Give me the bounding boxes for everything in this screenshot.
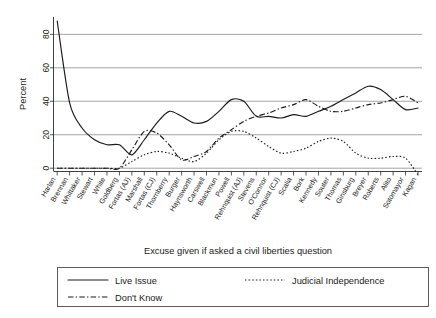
legend-entry-dont-know: Don't Know bbox=[68, 293, 163, 303]
y-tick-label: 40 bbox=[41, 96, 51, 106]
x-axis-title: Excuse given if asked a civil liberties … bbox=[144, 246, 332, 256]
y-tick-label: 20 bbox=[41, 130, 51, 140]
chart-figure: 020406080 HarlanBrennanWhittakerStewartW… bbox=[0, 0, 436, 318]
gridlines bbox=[54, 34, 423, 168]
legend-label-live-issue: Live Issue bbox=[115, 276, 157, 286]
y-axis-tick-labels: 020406080 bbox=[41, 29, 51, 170]
y-tick-label: 60 bbox=[41, 63, 51, 73]
legend-box bbox=[58, 268, 429, 307]
x-axis-ticks bbox=[57, 172, 418, 176]
series-line-dont-know bbox=[57, 96, 418, 169]
y-tick-label: 80 bbox=[41, 29, 51, 39]
x-axis-tick-labels: HarlanBrennanWhittakerStewartWhiteGoldbe… bbox=[39, 175, 418, 222]
legend-label-dont-know: Don't Know bbox=[115, 293, 163, 303]
chart-svg: 020406080 HarlanBrennanWhittakerStewartW… bbox=[0, 0, 436, 318]
y-tick-label: 0 bbox=[41, 166, 51, 171]
legend-entry-judicial-independence: Judicial Independence bbox=[245, 276, 385, 286]
legend-label-judicial-independence: Judicial Independence bbox=[292, 276, 385, 286]
y-axis-title: Percent bbox=[18, 78, 28, 110]
legend-entry-live-issue: Live Issue bbox=[68, 276, 157, 286]
